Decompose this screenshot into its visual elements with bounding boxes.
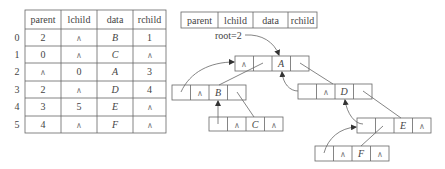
pointer-d-rchild-to-e (363, 91, 401, 118)
cell-data: D (110, 84, 119, 95)
cell-rchild: ∧ (147, 103, 153, 112)
cell-rchild: ∧ (147, 121, 153, 130)
cell-parent: 2 (41, 84, 46, 95)
tree-node-d: ∧ D (298, 84, 372, 99)
legend-field-lchild: lchild (224, 15, 247, 26)
tree-node-f: ∧ F ∧ (315, 146, 389, 161)
row-index: 4 (15, 101, 20, 112)
legend-field-parent: parent (187, 15, 212, 26)
legend-field-data: data (262, 15, 279, 26)
node-d-lchild: ∧ (323, 88, 329, 97)
root-label: root=2 (215, 30, 242, 41)
tree-node-a: ∧ A (235, 56, 309, 71)
node-c-lchild: ∧ (234, 121, 240, 130)
pointer-b-rchild-to-c (237, 92, 254, 117)
static-table: parent lchild data rchild 0 2 ∧ B 1 1 0 … (15, 10, 167, 133)
cell-parent: 4 (41, 119, 46, 130)
row-index: 5 (15, 119, 20, 130)
node-f-data: F (357, 148, 365, 159)
tree-node-c: ∧ C ∧ (209, 117, 283, 131)
cell-lchild: 0 (77, 66, 82, 77)
table-row: 5 4 ∧ F ∧ (15, 119, 153, 130)
node-f-lchild: ∧ (340, 150, 346, 159)
node-c-rchild: ∧ (271, 121, 277, 130)
node-e-data: E (399, 120, 406, 131)
cell-parent: 0 (41, 49, 46, 60)
table-row: 2 ∧ 0 A 3 (15, 66, 153, 77)
table-border (25, 10, 166, 133)
row-index: 2 (15, 66, 20, 77)
node-c-data: C (252, 119, 259, 130)
node-e-rchild: ∧ (419, 122, 425, 131)
cell-data: B (112, 32, 118, 43)
pointer-e-lchild-to-f (361, 126, 383, 146)
table-header-rchild: rchild (138, 14, 161, 25)
pointer-d-parent-to-a (282, 72, 298, 91)
node-a-data: A (277, 58, 285, 69)
cell-rchild: 3 (147, 66, 152, 77)
node-b-data: B (215, 87, 221, 98)
node-structure-legend: parent lchild data rchild (181, 12, 317, 28)
table-row: 1 0 ∧ C ∧ (15, 49, 153, 60)
node-a-parent: ∧ (241, 60, 247, 69)
cell-data: F (111, 119, 119, 130)
table-header-parent: parent (31, 14, 56, 25)
table-row: 3 2 ∧ D 4 (15, 84, 153, 95)
cell-lchild: ∧ (76, 51, 82, 60)
cell-lchild: 5 (77, 101, 82, 112)
cell-parent: ∧ (40, 68, 46, 77)
pointer-a-rchild-to-d (300, 63, 333, 84)
cell-rchild: 4 (147, 84, 152, 95)
legend-field-rchild: rchild (291, 15, 314, 26)
node-b-lchild: ∧ (197, 89, 203, 98)
cell-parent: 3 (41, 101, 46, 112)
tree-node-e: E ∧ (357, 118, 431, 133)
diagram-canvas: parent lchild data rchild 0 2 ∧ B 1 1 0 … (0, 0, 445, 169)
row-index: 3 (15, 84, 20, 95)
node-f-rchild: ∧ (377, 150, 383, 159)
cell-rchild: ∧ (147, 51, 153, 60)
pointer-e-parent-to-d (345, 100, 363, 124)
cell-lchild: ∧ (76, 34, 82, 43)
cell-data: C (112, 49, 119, 60)
row-index: 0 (15, 32, 20, 43)
node-d-data: D (339, 86, 348, 97)
cell-data: E (111, 101, 118, 112)
cell-data: A (111, 66, 119, 77)
row-index: 1 (15, 49, 20, 60)
cell-rchild: 1 (147, 32, 152, 43)
table-header-lchild: lchild (68, 14, 91, 25)
table-header-data: data (107, 14, 124, 25)
table-row: 0 2 ∧ B 1 (15, 32, 153, 43)
cell-parent: 2 (41, 32, 46, 43)
cell-lchild: ∧ (76, 121, 82, 130)
pointer-b-parent-to-a (181, 62, 234, 92)
root-arrow (245, 35, 279, 55)
cell-lchild: ∧ (76, 86, 82, 95)
table-row: 4 3 5 E ∧ (15, 101, 153, 112)
